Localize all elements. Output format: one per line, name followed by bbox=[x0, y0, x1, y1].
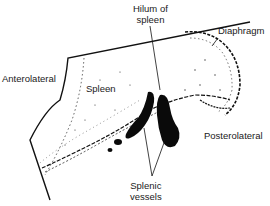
hilum-leader bbox=[150, 26, 160, 90]
vessels-leader-right bbox=[152, 140, 165, 176]
posterolateral-label: Posterolateral bbox=[204, 130, 263, 141]
diaphragm-leader bbox=[212, 38, 218, 46]
splenic-vessels-shapes bbox=[108, 92, 180, 152]
spleen-diagram: Hilum of spleen Diaphragm Anterolateral … bbox=[0, 0, 270, 206]
spleen-label: Spleen bbox=[86, 83, 116, 94]
hilum-label-line2: spleen bbox=[133, 14, 168, 25]
vessels-label-line1: Splenic bbox=[130, 180, 162, 191]
vessels-label-line2: vessels bbox=[130, 191, 162, 202]
body-outline bbox=[30, 22, 250, 200]
vessels-leader-left bbox=[144, 128, 152, 176]
hilum-label-line1: Hilum of bbox=[133, 3, 168, 14]
diaphragm-edge bbox=[185, 32, 240, 115]
spleen-texture bbox=[64, 59, 220, 145]
splenic-vessels-label: Splenic vessels bbox=[130, 180, 162, 202]
anterolateral-label: Anterolateral bbox=[2, 73, 56, 84]
diaphragm-label: Diaphragm bbox=[218, 25, 264, 36]
hilum-label: Hilum of spleen bbox=[133, 3, 168, 25]
